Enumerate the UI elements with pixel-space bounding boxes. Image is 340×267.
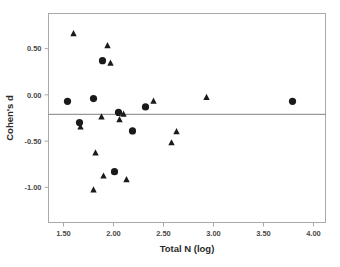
- data-point-triangle: [100, 172, 106, 178]
- data-point-triangle: [116, 116, 122, 122]
- data-point-circle: [289, 98, 296, 105]
- data-point-circle: [64, 98, 71, 105]
- y-axis-title: Cohen's d: [4, 95, 15, 141]
- data-point-triangle: [173, 128, 179, 134]
- data-point-circle: [115, 109, 122, 116]
- data-point-triangle: [92, 149, 98, 155]
- data-point-circle: [129, 127, 136, 134]
- data-point-circle: [90, 95, 97, 102]
- data-point-circle: [111, 168, 118, 175]
- chart-canvas: 1.502.002.503.003.504.000.500.00-0.50-1.…: [0, 0, 340, 267]
- x-tick-label: 4.00: [306, 229, 321, 238]
- data-point-triangle: [168, 139, 174, 145]
- data-point-circle: [76, 119, 83, 126]
- data-point-triangle: [90, 186, 96, 192]
- data-point-circle: [99, 57, 106, 64]
- y-tick-label: 0.00: [27, 91, 42, 100]
- y-tick-label: -0.50: [24, 137, 41, 146]
- data-point-triangle: [123, 176, 129, 182]
- x-tick-label: 2.00: [106, 229, 121, 238]
- plot-frame: [49, 14, 326, 223]
- x-tick-label: 1.50: [56, 229, 71, 238]
- data-point-triangle: [150, 98, 156, 104]
- x-tick-label: 3.00: [206, 229, 221, 238]
- x-tick-label: 2.50: [156, 229, 171, 238]
- y-tick-label: -1.00: [24, 183, 41, 192]
- scatter-plot-figure: 1.502.002.503.003.504.000.500.00-0.50-1.…: [0, 0, 340, 267]
- data-point-triangle: [104, 42, 110, 48]
- x-axis-title: Total N (log): [160, 243, 215, 254]
- data-point-triangle: [107, 60, 113, 66]
- data-point-triangle: [203, 94, 209, 100]
- data-point-circle: [142, 103, 149, 110]
- x-tick-label: 3.50: [256, 229, 271, 238]
- y-tick-label: 0.50: [27, 44, 42, 53]
- data-point-triangle: [70, 30, 76, 36]
